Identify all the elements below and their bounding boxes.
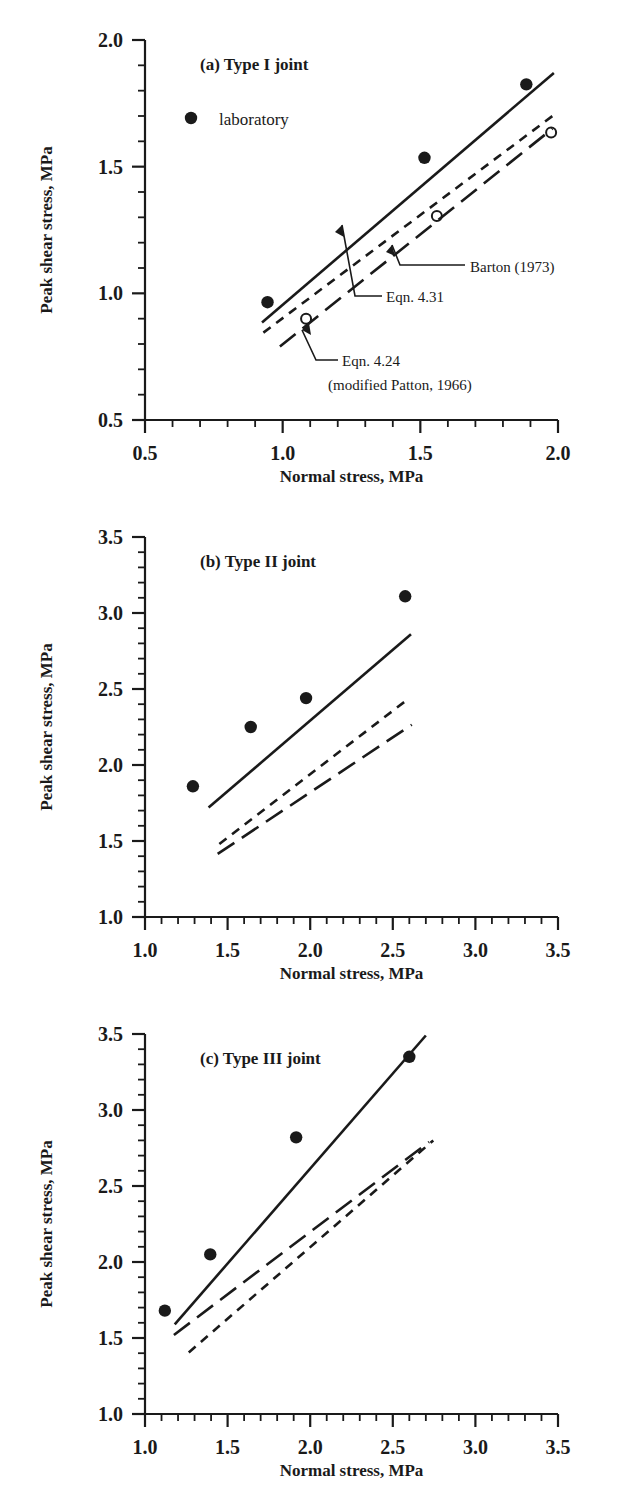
series-line-solid [209,634,411,807]
x-axis-title: Normal stress, MPa [280,467,424,486]
data-point-filled [418,152,430,164]
data-point-filled [187,780,199,792]
panel-title: (b) Type II joint [200,552,316,571]
series-line-dash-dot [218,725,412,854]
chart-panel-a: 0.51.01.52.00.51.01.52.0Normal stress, M… [0,0,631,497]
y-axis-title: Peak shear stress, MPa [37,1140,56,1308]
x-tick-label: 2.0 [546,442,571,464]
series-line-dash-dot [174,1142,429,1335]
data-point-filled [520,78,532,90]
data-point-filled [261,296,273,308]
x-tick-label: 0.5 [133,442,158,464]
series-line-dash-dot [280,129,553,347]
y-tick-label: 2.5 [98,1175,123,1197]
data-point-filled [290,1131,302,1143]
y-tick-label: 1.0 [98,1403,123,1425]
y-tick-label: 2.5 [98,678,123,700]
data-point-filled [245,721,257,733]
x-tick-label: 1.0 [133,1436,158,1458]
x-axis-title: Normal stress, MPa [280,964,424,983]
annotation-eqn424: Eqn. 4.24 [342,353,400,369]
x-tick-label: 3.0 [463,1436,488,1458]
y-tick-label: 3.0 [98,602,123,624]
plot-area-c: 1.01.52.02.53.03.51.01.52.02.53.03.5Norm… [0,994,631,1491]
legend-marker-icon [185,112,197,124]
x-tick-label: 1.0 [270,442,295,464]
legend-label: laboratory [219,110,289,129]
y-tick-label: 0.5 [98,409,123,431]
y-tick-label: 3.5 [98,1023,123,1045]
y-tick-label: 2.0 [98,29,123,51]
data-point-filled [300,692,312,704]
annotation-barton: Barton (1973) [470,259,555,276]
panel-title: (c) Type III joint [200,1049,321,1068]
y-tick-label: 1.5 [98,1327,123,1349]
panel-title: (a) Type I joint [200,55,309,74]
y-axis-title: Peak shear stress, MPa [37,146,56,314]
chart-panel-b: 1.01.52.02.53.03.51.01.52.02.53.03.5Norm… [0,497,631,994]
data-point-open [546,127,556,137]
y-tick-label: 3.0 [98,1099,123,1121]
y-tick-label: 3.5 [98,526,123,548]
panel-content: 0.51.01.52.00.51.01.52.0Normal stress, M… [37,29,571,486]
series-line-solid [262,73,554,323]
series-line-dashed [219,698,409,844]
y-tick-label: 1.5 [98,156,123,178]
x-tick-label: 2.0 [298,1436,323,1458]
y-tick-label: 2.0 [98,1251,123,1273]
y-tick-label: 2.0 [98,754,123,776]
annotation-eqn431: Eqn. 4.31 [386,289,444,305]
data-point-filled [399,590,411,602]
panel-content: 1.01.52.02.53.03.51.01.52.02.53.03.5Norm… [37,526,571,983]
chart-panel-c: 1.01.52.02.53.03.51.01.52.02.53.03.5Norm… [0,994,631,1491]
annotation-leader-eqn424 [302,330,338,360]
plot-area-a: 0.51.01.52.00.51.01.52.0Normal stress, M… [0,0,631,497]
x-tick-label: 3.5 [546,1436,571,1458]
panel-content: 1.01.52.02.53.03.51.01.52.02.53.03.5Norm… [37,1023,571,1480]
x-tick-label: 2.0 [298,939,323,961]
x-tick-label: 3.0 [463,939,488,961]
data-point-filled [204,1248,216,1260]
y-axis-title: Peak shear stress, MPa [37,643,56,811]
x-axis-title: Normal stress, MPa [280,1461,424,1480]
y-tick-label: 1.5 [98,830,123,852]
x-tick-label: 1.5 [215,939,240,961]
x-tick-label: 1.0 [133,939,158,961]
x-tick-label: 1.5 [408,442,433,464]
annotation-eqn424-sub: (modified Patton, 1966) [328,377,472,394]
y-tick-label: 1.0 [98,906,123,928]
plot-area-b: 1.01.52.02.53.03.51.01.52.02.53.03.5Norm… [0,497,631,994]
data-point-filled [159,1304,171,1316]
y-tick-label: 1.0 [98,282,123,304]
x-tick-label: 3.5 [546,939,571,961]
series-line-dashed [189,1140,433,1352]
x-tick-label: 2.5 [380,1436,405,1458]
x-tick-label: 2.5 [380,939,405,961]
x-tick-label: 1.5 [215,1436,240,1458]
